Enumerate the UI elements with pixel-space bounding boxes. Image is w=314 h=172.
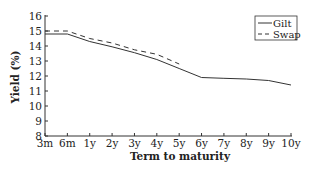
x-tick-label: 1y [83,137,96,149]
y-tick-label: 12 [29,70,42,82]
y-tick-label: 14 [29,40,43,52]
x-tick-label: 6y [195,137,208,149]
legend-label-gilt: Gilt [273,18,291,29]
y-tick-label: 13 [29,55,42,67]
x-tick-label: 5y [173,137,186,149]
x-tick-label: 2y [106,137,119,149]
y-axis-title: Yield (%) [9,51,21,105]
x-tick-label: 8y [240,137,253,149]
x-tick-label: 9y [262,137,275,149]
x-tick-label: 3m [37,137,54,149]
y-tick-label: 10 [29,100,42,112]
chart-legend: GiltSwap [255,16,301,40]
series-swap-line [45,31,179,64]
x-tick-label: 10y [281,137,300,149]
y-tick-label: 15 [29,25,42,37]
y-tick-label: 9 [35,115,42,127]
x-tick-label: 6m [59,137,76,149]
x-tick-label: 4y [151,137,164,149]
y-tick-label: 16 [29,10,43,22]
chart-series [45,31,291,85]
legend-label-swap: Swap [273,29,301,40]
x-tick-label: 3y [128,137,141,149]
x-tick-label: 7y [218,137,231,149]
x-axis-title: Term to maturity [130,150,231,162]
yield-curve-chart: 89101112131415163m6m1y2y3y4y5y6y7y8y9y10… [0,0,314,172]
y-tick-label: 11 [29,85,42,97]
